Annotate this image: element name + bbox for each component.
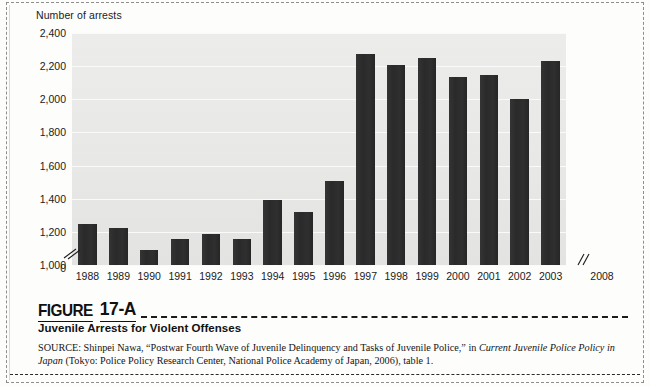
- bar: [418, 58, 437, 265]
- bar: [387, 65, 406, 265]
- bar: [140, 250, 159, 265]
- x-axis-tick-label: 2002: [504, 270, 535, 282]
- bar-chart: Number of arrests 2,4002,2002,0001,8001,…: [0, 0, 650, 298]
- x-axis-tick-label: 1994: [257, 270, 288, 282]
- bar: [449, 77, 468, 265]
- x-axis-tick-label: 1991: [165, 270, 196, 282]
- y-axis-tick-label: 1,600: [6, 160, 66, 172]
- caption-bottom-rule: [10, 374, 640, 375]
- bar: [263, 200, 282, 265]
- y-axis-tick-label: 2,200: [6, 60, 66, 72]
- bar: [510, 99, 529, 265]
- bar: [356, 54, 375, 265]
- gridline: [72, 66, 566, 67]
- x-axis-tick-label: 1999: [412, 270, 443, 282]
- bar: [109, 228, 128, 265]
- gridline: [72, 265, 566, 266]
- bar: [325, 181, 344, 266]
- gridline: [72, 33, 566, 34]
- caption-dashed-rule: [141, 316, 628, 318]
- y-axis-tick-label: 0: [6, 262, 66, 274]
- y-axis-break-icon: [62, 246, 82, 262]
- source-prefix-text: SOURCE: Shinpei Nawa, “Postwar Fourth Wa…: [38, 342, 479, 353]
- y-axis-tick-label: 2,000: [6, 93, 66, 105]
- source-suffix-text: (Tokyo: Police Policy Research Center, N…: [63, 355, 433, 366]
- plot-area: [72, 33, 566, 265]
- figure-label-number: 17-A: [100, 299, 136, 322]
- bar: [294, 212, 313, 265]
- x-axis-tick-label: 1997: [350, 270, 381, 282]
- y-axis-title: Number of arrests: [36, 9, 122, 21]
- x-axis-tick-label: 1995: [288, 270, 319, 282]
- x-axis-tick-label: 1988: [72, 270, 103, 282]
- figure-label-row: FIGURE 17-A: [38, 300, 628, 322]
- bar: [480, 75, 499, 265]
- x-axis-break-icon: [575, 252, 593, 268]
- x-axis-tick-label: 1998: [381, 270, 412, 282]
- x-axis-tick-label: 1993: [226, 270, 257, 282]
- x-axis-tick-label: 2001: [473, 270, 504, 282]
- x-axis-tick-label: 1996: [319, 270, 350, 282]
- x-axis-tick-label: 1992: [196, 270, 227, 282]
- x-axis-tick-label: 1989: [103, 270, 134, 282]
- x-axis-tick-label: 2008: [587, 270, 618, 282]
- bar: [233, 239, 252, 265]
- y-axis-tick-label: 1,200: [6, 226, 66, 238]
- y-axis-tick-label: 1,800: [6, 126, 66, 138]
- figure-label-word: FIGURE: [38, 301, 93, 322]
- x-axis-tick-label: 1990: [134, 270, 165, 282]
- y-axis-tick-label: 2,400: [6, 27, 66, 39]
- bar: [202, 234, 221, 265]
- bar: [171, 239, 190, 266]
- x-axis-tick-label: 2003: [535, 270, 566, 282]
- figure-caption: FIGURE 17-A Juvenile Arrests for Violent…: [0, 296, 650, 387]
- bar: [541, 61, 560, 265]
- figure-container: Number of arrests 2,4002,2002,0001,8001,…: [0, 0, 650, 387]
- x-axis-tick-label: 2000: [443, 270, 474, 282]
- figure-subtitle: Juvenile Arrests for Violent Offenses: [38, 322, 241, 334]
- y-axis-tick-label: 1,400: [6, 193, 66, 205]
- figure-source-note: SOURCE: Shinpei Nawa, “Postwar Fourth Wa…: [38, 341, 630, 367]
